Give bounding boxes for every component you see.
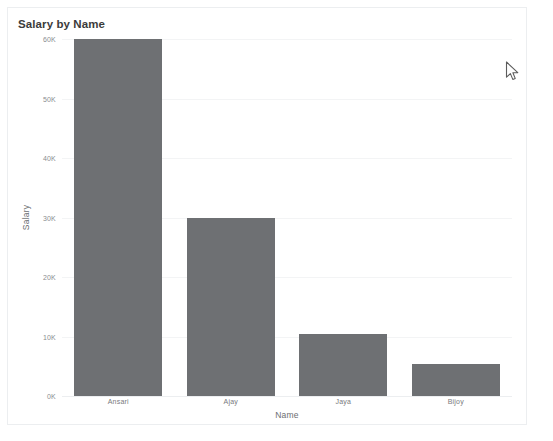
y-axis-tick-label: 20K (43, 274, 56, 281)
x-axis-tick-label: Ansari (108, 398, 129, 405)
x-axis-tick-label: Bijoy (448, 398, 464, 405)
bar-jaya[interactable] (299, 334, 387, 396)
x-axis-title: Name (62, 410, 512, 420)
y-axis-tick-label: 30K (43, 214, 56, 221)
y-axis-tick-label: 50K (43, 95, 56, 102)
y-axis-tick-label: 0K (47, 393, 56, 400)
gridline (62, 396, 512, 397)
bar-ajay[interactable] (187, 218, 275, 397)
plot-area[interactable] (62, 39, 512, 396)
x-axis-tick-label: Jaya (335, 398, 351, 405)
y-axis-tick-label: 40K (43, 155, 56, 162)
y-axis-tick-label: 60K (43, 36, 56, 43)
y-axis-tick-labels: 0K10K20K30K40K50K60K (8, 39, 62, 396)
bar-bijoy[interactable] (412, 364, 500, 396)
bar-ansari[interactable] (74, 39, 162, 396)
x-axis-tick-label: Ajay (224, 398, 238, 405)
chart-card[interactable]: Salary by Name Salary 0K10K20K30K40K50K6… (7, 7, 527, 425)
y-axis-tick-label: 10K (43, 333, 56, 340)
chart-title: Salary by Name (18, 18, 105, 30)
